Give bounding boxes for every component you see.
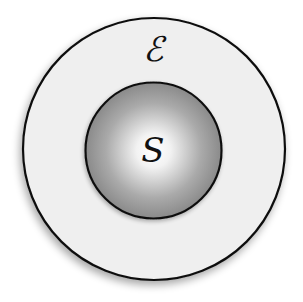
system-environment-diagram: ℰ S: [0, 0, 303, 302]
system-label: S: [141, 130, 164, 170]
environment-label: ℰ: [143, 29, 167, 69]
